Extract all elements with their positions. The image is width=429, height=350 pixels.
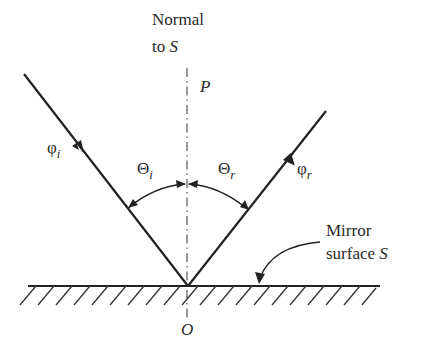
incident-ray xyxy=(24,74,188,286)
incidence-arrow-top-icon xyxy=(176,180,186,188)
reflected-ray-label: φr xyxy=(297,159,313,182)
mirror-pointer-arrow-icon xyxy=(255,272,265,284)
incidence-angle-label: Θi xyxy=(137,159,153,182)
mirror-label-line1: Mirror xyxy=(326,221,372,240)
normal-label-line2: to S xyxy=(152,37,178,56)
normal-label-line1: Normal xyxy=(152,10,204,29)
mirror-pointer-curve xyxy=(260,242,320,278)
incident-ray-label: φi xyxy=(47,138,61,161)
reflection-angle-label: Θr xyxy=(218,159,236,182)
reflected-ray xyxy=(188,111,326,286)
incidence-arrow-bottom-icon xyxy=(128,199,138,208)
surface-hatching xyxy=(20,286,376,305)
reflection-diagram: Normal to S P φi φr Θi Θr Mirror surface… xyxy=(0,0,429,350)
point-o-label: O xyxy=(181,320,193,339)
reflection-angle-arc xyxy=(189,184,246,208)
point-p-label: P xyxy=(199,77,210,96)
mirror-label-line2: surface S xyxy=(326,244,388,263)
reflection-arrow-top-icon xyxy=(188,180,198,188)
incident-ray-arrow-icon xyxy=(72,140,84,153)
